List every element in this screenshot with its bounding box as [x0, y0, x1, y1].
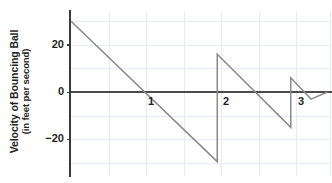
y-axis-tick-mark	[67, 92, 71, 94]
velocity-series-line	[71, 21, 328, 161]
x-axis-tick-label: 2	[223, 95, 229, 107]
bouncing-ball-velocity-chart: Velocity of Bouncing Ball (in feet per s…	[0, 0, 332, 183]
y-axis-tick-label: −20	[45, 132, 64, 144]
y-axis-tick-label: 20	[52, 38, 64, 50]
y-axis-tick-mark	[67, 44, 71, 46]
series-layer	[0, 0, 332, 183]
x-axis-tick-label: 1	[148, 95, 154, 107]
y-axis-tick-label: 0	[58, 85, 64, 97]
x-axis-tick-label: 3	[298, 95, 304, 107]
y-axis-tick-mark	[67, 139, 71, 141]
